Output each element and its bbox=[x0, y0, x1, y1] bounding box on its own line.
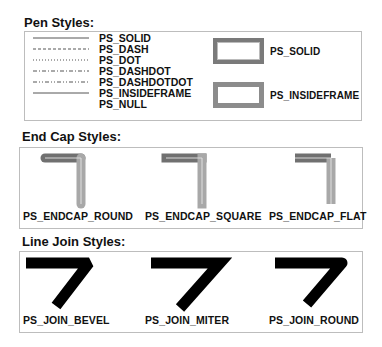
endcap-round-diagram bbox=[45, 158, 81, 204]
endcap-flat-diagram bbox=[295, 158, 331, 204]
join-label-bevel: PS_JOIN_BEVEL bbox=[23, 314, 110, 326]
pen-style-label-dashdot: PS_DASHDOT bbox=[99, 66, 171, 76]
pen-style-label-solid: PS_SOLID bbox=[99, 33, 151, 43]
endcap-styles-panel: PS_ENDCAP_ROUND PS_ENDCAP_SQUARE PS_ENDC… bbox=[19, 147, 363, 229]
pen-styles-heading: Pen Styles: bbox=[24, 15, 94, 30]
join-bevel-diagram bbox=[26, 263, 89, 306]
join-styles-heading: Line Join Styles: bbox=[22, 234, 125, 249]
endcap-square-diagram bbox=[166, 158, 202, 204]
pen-style-label-dot: PS_DOT bbox=[99, 55, 141, 65]
join-label-round: PS_JOIN_ROUND bbox=[269, 314, 359, 326]
join-styles-panel: PS_JOIN_BEVEL PS_JOIN_MITER PS_JOIN_ROUN… bbox=[19, 251, 363, 333]
pen-style-label-dashdotdot: PS_DASHDOTDOT bbox=[99, 77, 193, 87]
endcap-label-round: PS_ENDCAP_ROUND bbox=[23, 210, 133, 222]
frame-label-solid: PS_SOLID bbox=[270, 46, 320, 57]
pen-style-label-insideframe: PS_INSIDEFRAME bbox=[99, 88, 191, 98]
join-round-diagram bbox=[275, 263, 342, 304]
join-label-miter: PS_JOIN_MITER bbox=[145, 314, 229, 326]
pen-style-label-dash: PS_DASH bbox=[99, 44, 149, 54]
pen-styles-panel: PS_SOLID PS_DASH PS_DOT PS_DASHDOT PS_DA… bbox=[24, 31, 362, 121]
pen-style-label-null: PS_NULL bbox=[99, 99, 147, 109]
endcap-label-flat: PS_ENDCAP_FLAT bbox=[269, 210, 366, 222]
frame-label-insideframe: PS_INSIDEFRAME bbox=[270, 90, 359, 101]
endcap-label-square: PS_ENDCAP_SQUARE bbox=[145, 210, 262, 222]
endcap-styles-heading: End Cap Styles: bbox=[22, 129, 121, 144]
join-miter-diagram bbox=[151, 263, 220, 308]
